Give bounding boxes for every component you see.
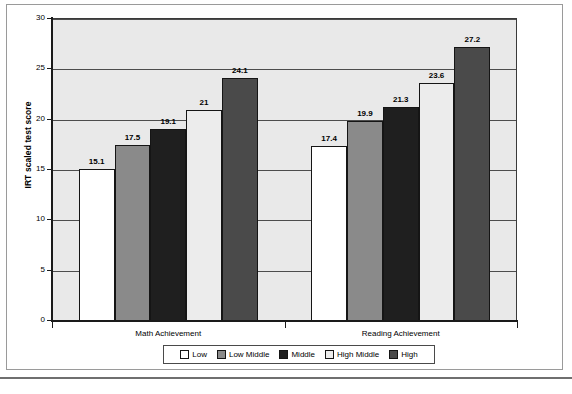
bar [311,146,347,321]
bar-value-label: 19.9 [339,109,391,118]
bar-value-label: 17.5 [107,133,159,142]
plot-area [52,18,517,320]
y-axis-tick-label: 25 [5,64,45,72]
legend-item: Middle [279,350,315,359]
legend-swatch [389,350,398,359]
bar-value-label: 21 [178,98,230,107]
legend-label: High [401,350,417,359]
legend-item: High Middle [325,350,379,359]
bar-value-label: 27.2 [446,35,498,44]
legend-label: Low Middle [229,350,269,359]
bar-value-label: 23.6 [411,71,463,80]
legend-label: High Middle [337,350,379,359]
x-axis-tick-mark [285,322,286,328]
bar-value-label: 15.1 [71,157,123,166]
y-axis-tick-label: 0 [5,316,45,324]
legend-swatch [325,350,334,359]
bar-value-label: 21.3 [375,95,427,104]
gridline [52,69,516,70]
x-axis-category-label: Reading Achievement [285,329,518,338]
bar [383,107,419,321]
bar-value-label: 19.1 [142,117,194,126]
bar [79,169,115,321]
legend-label: Low [192,350,207,359]
bar [347,121,383,321]
legend-label: Middle [291,350,315,359]
legend: LowLow MiddleMiddleHigh MiddleHigh [163,345,435,364]
bar-value-label: 17.4 [303,134,355,143]
legend-item: High [389,350,417,359]
x-axis-tick-mark [52,322,53,328]
legend-swatch [279,350,288,359]
bar [222,78,258,321]
y-axis-tick-mark [47,169,52,170]
y-axis-tick-mark [47,320,52,321]
legend-swatch [217,350,226,359]
legend-item: Low Middle [217,350,269,359]
y-axis-tick-label: 30 [5,14,45,22]
y-axis-tick-mark [47,119,52,120]
y-axis-tick-label: 5 [5,266,45,274]
x-axis-tick-mark [517,322,518,328]
y-axis-tick-label: 10 [5,215,45,223]
x-axis-category-label: Math Achievement [52,329,285,338]
gridline [52,19,516,20]
bottom-separator-rule [0,377,572,379]
bar [115,145,151,321]
bar-value-label: 24.1 [214,66,266,75]
y-axis-tick-label: 15 [5,165,45,173]
bar [419,83,455,321]
y-axis-tick-mark [47,219,52,220]
y-axis-tick-mark [47,68,52,69]
y-axis-tick-label: 20 [5,115,45,123]
chart-page: IRT scaled test score 051015202530 15.11… [0,0,572,394]
legend-item: Low [180,350,207,359]
bar [454,47,490,321]
y-axis-tick-mark [47,270,52,271]
y-axis-tick-mark [47,18,52,19]
bar [150,129,186,321]
legend-swatch [180,350,189,359]
bar [186,110,222,321]
